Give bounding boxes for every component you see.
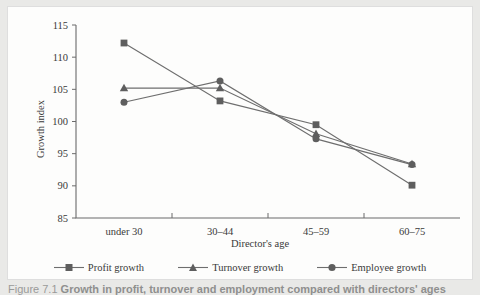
data-point <box>217 77 224 84</box>
series-line <box>124 81 412 165</box>
legend-item-employee-growth[interactable]: Employee growth <box>317 262 426 273</box>
y-tick-label: 105 <box>52 84 68 95</box>
y-axis-title: Growth index <box>35 99 46 158</box>
data-point <box>313 135 320 142</box>
series-profit-growth <box>121 40 416 189</box>
data-point <box>217 98 224 105</box>
legend-item-turnover-growth[interactable]: Turnover growth <box>178 262 283 273</box>
figure-panel: 859095100105110115under 3030–4445–5960–7… <box>8 7 472 279</box>
y-tick-label: 85 <box>58 213 69 224</box>
series-line <box>124 43 412 185</box>
caption-label: Figure 7.1 <box>8 283 58 295</box>
x-tick-label: 45–59 <box>303 226 329 237</box>
data-point <box>409 161 416 168</box>
data-point <box>313 121 320 128</box>
data-point <box>121 99 128 106</box>
y-tick-label: 95 <box>58 148 69 159</box>
series-turnover-growth <box>120 84 416 167</box>
figure-caption: Figure 7.1 Growth in profit, turnover an… <box>8 283 480 295</box>
figure-page: 859095100105110115under 3030–4445–5960–7… <box>0 0 480 295</box>
legend-swatch-triangle-icon <box>178 262 208 273</box>
chart-plot-area: 859095100105110115under 3030–4445–5960–7… <box>8 7 472 255</box>
x-axis-title: Director's age <box>231 238 289 249</box>
data-point <box>121 40 128 47</box>
data-point <box>409 182 416 189</box>
y-tick-label: 115 <box>53 20 68 31</box>
legend-label-employee-growth: Employee growth <box>351 262 426 273</box>
series-employee-growth <box>121 77 416 168</box>
legend-label-profit-growth: Profit growth <box>88 262 144 273</box>
legend-label-turnover-growth: Turnover growth <box>212 262 283 273</box>
x-tick-label: 30–44 <box>207 226 234 237</box>
line-chart: 859095100105110115under 3030–4445–5960–7… <box>8 7 472 255</box>
x-tick-label: under 30 <box>105 226 142 237</box>
x-tick-label: 60–75 <box>399 226 425 237</box>
chart-axes <box>76 25 460 218</box>
chart-legend: Profit growth Turnover growth Employee g… <box>8 257 472 277</box>
y-tick-label: 110 <box>53 52 68 63</box>
legend-item-profit-growth[interactable]: Profit growth <box>54 262 144 273</box>
legend-swatch-square-icon <box>54 262 84 273</box>
caption-text: Growth in profit, turnover and employmen… <box>61 283 446 295</box>
y-tick-label: 90 <box>58 180 69 191</box>
legend-swatch-circle-icon <box>317 262 347 273</box>
y-tick-label: 100 <box>52 116 68 127</box>
